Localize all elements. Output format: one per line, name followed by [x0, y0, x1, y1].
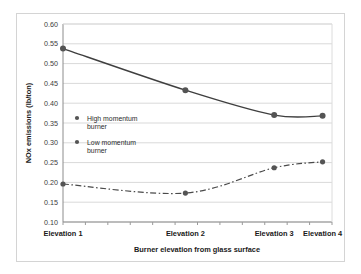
data-point-marker [320, 113, 326, 119]
legend-label-low-momentum-line1: Low momentum [87, 139, 136, 146]
data-point-marker [60, 46, 66, 52]
y-tick-label: 0.50 [44, 59, 58, 68]
y-tick-label: 0.15 [44, 198, 58, 207]
y-axis-title: NOx emissions (lb/ton) [24, 82, 33, 163]
y-tick-label: 0.40 [44, 99, 58, 108]
x-axis-title: Burner elevation from glass surface [134, 245, 260, 254]
y-tick-label: 0.25 [44, 158, 58, 167]
x-category-label: Elevation 2 [166, 229, 205, 238]
data-point-marker [183, 190, 188, 195]
legend-label-high-momentum-line1: High momentum [87, 115, 138, 123]
chart-figure: 0.100.150.200.250.300.350.400.450.500.55… [16, 13, 345, 262]
y-tick-label: 0.30 [44, 138, 58, 147]
x-category-label: Elevation 3 [255, 229, 294, 238]
data-point-marker [60, 181, 65, 186]
y-tick-label: 0.45 [44, 79, 58, 88]
y-tick-label: 0.60 [44, 20, 58, 29]
y-tick-label: 0.55 [44, 39, 58, 48]
data-point-marker [272, 165, 277, 170]
x-category-label: Elevation 1 [43, 229, 82, 238]
y-tick-label: 0.20 [44, 178, 58, 187]
data-point-marker [271, 112, 277, 118]
x-axis-category-labels: Elevation 1Elevation 2Elevation 3Elevati… [43, 229, 342, 238]
y-tick-label: 0.35 [44, 119, 58, 128]
legend-label-high-momentum-line2: burner [87, 123, 108, 130]
legend-marker-low-momentum [75, 140, 79, 144]
nox-emissions-line-chart: 0.100.150.200.250.300.350.400.450.500.55… [17, 14, 344, 261]
legend-marker-high-momentum [75, 116, 79, 120]
data-point-marker [182, 87, 188, 93]
data-point-marker [320, 159, 325, 164]
y-tick-label: 0.10 [44, 218, 58, 227]
legend-label-low-momentum-line2: burner [87, 147, 108, 154]
y-axis-tick-labels: 0.100.150.200.250.300.350.400.450.500.55… [44, 20, 58, 227]
x-category-label: Elevation 4 [303, 229, 343, 238]
